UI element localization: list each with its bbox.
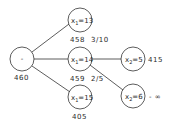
edge-root-n3: [32, 66, 70, 92]
node-n1-value: 458: [70, 36, 85, 44]
node-n1-label: x1=13: [71, 17, 93, 26]
branch-and-bound-tree: - 460 x1=13 458 3/10 x1=14 459 2/5 x1=15…: [0, 0, 180, 126]
node-n2-extra: 2/5: [91, 75, 104, 83]
node-n2-value: 459: [70, 75, 85, 83]
node-n4-value: 415: [148, 56, 163, 64]
root-label: -: [21, 55, 24, 63]
node-n1-extra: 3/10: [91, 36, 109, 44]
node-n4-label: x2=5: [125, 56, 143, 65]
node-n5-value: - ∞: [149, 93, 161, 101]
node-n2-label: x1=14: [71, 56, 94, 65]
node-n3-label: x1=15: [71, 94, 93, 103]
node-n3-value: 405: [72, 113, 87, 121]
node-n5-label: x2=6: [125, 93, 143, 102]
edge-root-n1: [32, 24, 69, 52]
root-value: 460: [14, 74, 29, 82]
